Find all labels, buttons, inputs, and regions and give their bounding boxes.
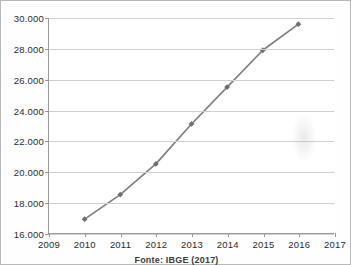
gridline-y bbox=[49, 111, 334, 112]
line-series: 2010: 16.9002011: 18.5002012: 20.5002013… bbox=[49, 18, 334, 233]
x-axis-tick-mark bbox=[156, 233, 157, 237]
x-axis-tick-mark bbox=[299, 233, 300, 237]
y-axis-tick-mark bbox=[45, 111, 49, 112]
x-axis-tick-mark bbox=[85, 233, 86, 237]
x-axis-tick-mark bbox=[192, 233, 193, 237]
x-axis-tick-label: 2011 bbox=[110, 239, 131, 250]
gridline-y bbox=[49, 49, 334, 50]
gridline-y bbox=[49, 18, 334, 19]
x-axis-tick-label: 2012 bbox=[145, 239, 167, 250]
x-axis-tick-label: 2015 bbox=[253, 239, 275, 250]
chart-area: 2010: 16.9002011: 18.5002012: 20.5002013… bbox=[4, 4, 348, 250]
gridline-y bbox=[49, 141, 334, 142]
y-axis-tick-mark bbox=[45, 172, 49, 173]
x-axis-tick-mark bbox=[335, 233, 336, 237]
x-axis-tick-mark bbox=[264, 233, 265, 237]
y-axis-tick-label: 28.000 bbox=[14, 43, 44, 54]
source-caption: Fonte: IBGE (2017) bbox=[1, 255, 351, 265]
x-axis-tick-label: 2010 bbox=[74, 239, 96, 250]
figure-frame: 2010: 16.9002011: 18.5002012: 20.5002013… bbox=[0, 0, 351, 265]
x-axis-tick-label: 2016 bbox=[288, 239, 310, 250]
y-axis-tick-label: 30.000 bbox=[14, 13, 44, 24]
plot-region: 2010: 16.9002011: 18.5002012: 20.5002013… bbox=[48, 18, 334, 234]
y-axis-tick-label: 26.000 bbox=[14, 74, 44, 85]
x-axis-tick-label: 2013 bbox=[181, 239, 203, 250]
x-axis-tick-label: 2017 bbox=[324, 239, 346, 250]
y-axis-tick-label: 16.000 bbox=[14, 229, 44, 240]
x-axis-tick-mark bbox=[121, 233, 122, 237]
y-axis-tick-mark bbox=[45, 49, 49, 50]
y-axis-tick-mark bbox=[45, 18, 49, 19]
y-axis-tick-mark bbox=[45, 203, 49, 204]
y-axis-tick-label: 20.000 bbox=[14, 167, 44, 178]
x-axis-tick-mark bbox=[228, 233, 229, 237]
gridline-y bbox=[49, 172, 334, 173]
x-axis-tick-mark bbox=[49, 233, 50, 237]
gridline-y bbox=[49, 203, 334, 204]
y-axis-tick-mark bbox=[45, 141, 49, 142]
y-axis-tick-label: 22.000 bbox=[14, 136, 44, 147]
y-axis-tick-label: 24.000 bbox=[14, 105, 44, 116]
x-axis-tick-label: 2014 bbox=[217, 239, 239, 250]
y-axis-tick-label: 18.000 bbox=[14, 198, 44, 209]
x-axis-tick-label: 2009 bbox=[38, 239, 60, 250]
gridline-y bbox=[49, 80, 334, 81]
y-axis-tick-mark bbox=[45, 80, 49, 81]
